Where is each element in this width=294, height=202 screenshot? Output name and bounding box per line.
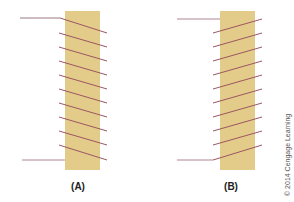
copyright-notice: © 2014 Cengage Learning: [284, 114, 291, 196]
panel-b-label: (B): [216, 181, 246, 192]
coil-b: [177, 11, 262, 170]
coil-a-core: [65, 11, 100, 170]
coil-a: [20, 11, 107, 170]
coil-diagram: [0, 0, 294, 202]
panel-a-label: (A): [63, 181, 93, 192]
coil-b-core: [220, 11, 255, 170]
